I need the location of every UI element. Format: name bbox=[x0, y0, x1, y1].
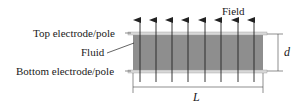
field-label: Field bbox=[222, 5, 245, 17]
gap-d-label: d bbox=[284, 45, 291, 59]
bottom-electrode-plate bbox=[128, 70, 267, 73]
electrorheological-cell-diagram: Field Top electrode/pole Fluid Bottom el… bbox=[0, 0, 301, 104]
top-electrode-label: Top electrode/pole bbox=[33, 27, 115, 39]
gap-dimension bbox=[267, 34, 283, 71]
fluid-leader bbox=[107, 43, 134, 53]
length-l-label: L bbox=[192, 90, 200, 104]
bottom-electrode-label: Bottom electrode/pole bbox=[16, 65, 114, 77]
fluid-region bbox=[133, 34, 263, 71]
top-electrode-plate bbox=[128, 32, 267, 35]
fluid-label: Fluid bbox=[81, 46, 105, 58]
